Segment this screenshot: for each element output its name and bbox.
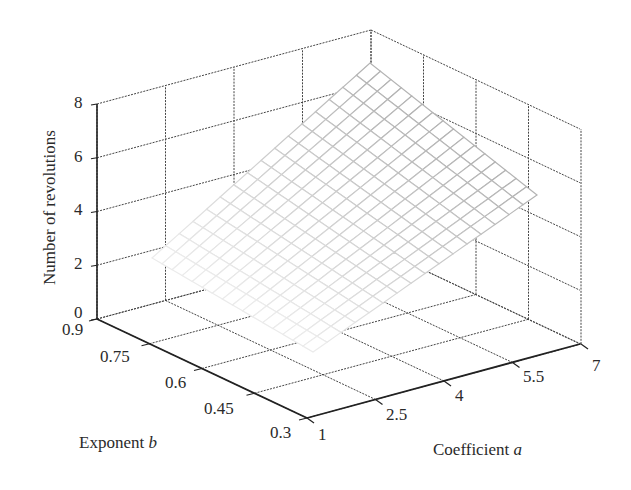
b-tick bbox=[142, 344, 150, 346]
a-tick-2.5: 2.5 bbox=[386, 405, 407, 425]
z-axis-label: Number of revolutions bbox=[40, 130, 60, 285]
z-tick bbox=[91, 212, 97, 213]
a-tick-4: 4 bbox=[455, 386, 464, 406]
surface-plot: Number of revolutions 8 6 4 2 0 0.9 0.75… bbox=[0, 0, 631, 490]
b-axis-label: Exponent b bbox=[79, 433, 157, 453]
z-tick bbox=[91, 265, 97, 266]
b-tick-0.9: 0.9 bbox=[62, 320, 83, 340]
a-tick bbox=[307, 418, 314, 423]
a-tick-1: 1 bbox=[318, 425, 327, 445]
b-tick-0.75: 0.75 bbox=[100, 347, 130, 367]
b-tick bbox=[247, 393, 255, 395]
a-tick-5.5: 5.5 bbox=[523, 367, 544, 387]
z-tick bbox=[91, 104, 97, 105]
z-tick-2: 2 bbox=[74, 254, 83, 274]
b-tick-0.6: 0.6 bbox=[165, 373, 186, 393]
a-axis-label: Coefficient a bbox=[433, 440, 522, 460]
z-tick bbox=[91, 158, 97, 159]
z-tick-8: 8 bbox=[74, 93, 83, 113]
a-tick bbox=[444, 381, 451, 386]
a-tick bbox=[513, 363, 520, 368]
b-tick-0.3: 0.3 bbox=[270, 423, 291, 443]
b-tick bbox=[194, 369, 202, 371]
z-tick-4: 4 bbox=[74, 200, 83, 220]
a-tick-7: 7 bbox=[592, 356, 601, 376]
a-tick bbox=[581, 344, 588, 349]
a-tick bbox=[376, 400, 383, 405]
b-tick-0.45: 0.45 bbox=[204, 399, 234, 419]
b-tick bbox=[299, 418, 307, 420]
plot-canvas bbox=[0, 0, 631, 490]
z-tick-6: 6 bbox=[74, 147, 83, 167]
